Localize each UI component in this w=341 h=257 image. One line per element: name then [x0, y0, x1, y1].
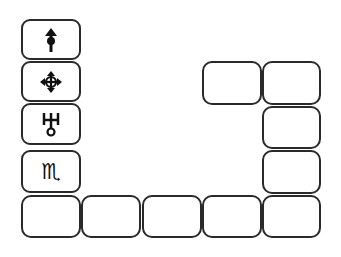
scorpio-symbol-icon: ♏	[41, 161, 61, 183]
board-slot-bottom-5[interactable]	[262, 195, 321, 238]
tool-slot-move-all[interactable]	[21, 61, 81, 102]
tool-slot-scorpio[interactable]: ♏	[21, 150, 81, 193]
tool-slot-uranus[interactable]	[21, 103, 81, 145]
board-slot-right-1[interactable]	[262, 61, 321, 105]
four-way-arrows-icon	[40, 71, 62, 93]
board-slot-bottom-1[interactable]	[21, 195, 81, 238]
tool-slot-move-up[interactable]	[21, 19, 81, 60]
board-slot-right-3[interactable]	[262, 150, 321, 194]
board-slot-bottom-2[interactable]	[81, 195, 141, 238]
board-slot-bottom-4[interactable]	[202, 195, 262, 238]
board-slot-bottom-3[interactable]	[142, 195, 202, 238]
uranus-symbol-icon	[41, 111, 61, 137]
up-arrow-circle-icon	[44, 27, 58, 53]
board-slot-top-middle[interactable]	[202, 61, 262, 105]
board-slot-right-2[interactable]	[262, 106, 321, 149]
